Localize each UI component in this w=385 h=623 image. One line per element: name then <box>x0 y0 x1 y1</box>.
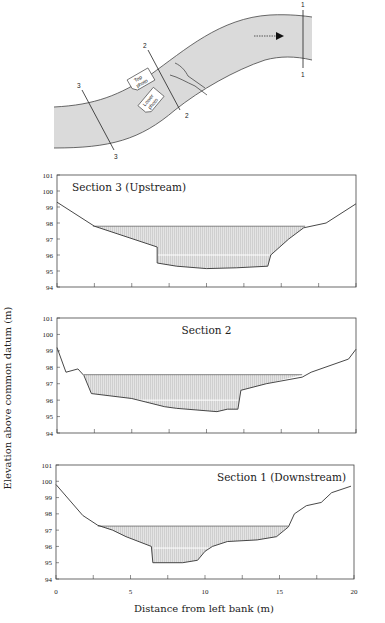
section-2-bottom-label: 2 <box>185 112 189 119</box>
water-area <box>93 226 305 268</box>
section-1-top-label: 1 <box>301 1 305 8</box>
y-tick-label: 96 <box>46 252 54 260</box>
panel-title: Section 2 <box>182 324 232 336</box>
section-2-chart: 949596979899100101Section 2 <box>43 315 357 438</box>
y-tick-label: 94 <box>45 576 53 584</box>
y-tick-label: 100 <box>43 188 54 196</box>
section-1-bottom-label: 1 <box>301 71 305 78</box>
water-area <box>98 526 289 563</box>
x-tick-label: 10 <box>202 588 210 596</box>
panel-title: Section 1 (Downstream) <box>217 471 346 483</box>
y-tick-label: 101 <box>42 462 53 470</box>
section-1-chart: 94959697989910010105101520Section 1 (Dow… <box>42 462 359 597</box>
y-tick-label: 98 <box>46 364 54 372</box>
y-tick-label: 94 <box>46 430 54 438</box>
y-tick-label: 99 <box>46 347 54 355</box>
panel-title: Section 3 (Upstream) <box>72 181 186 193</box>
y-tick-label: 98 <box>46 220 54 228</box>
section-2-top-label: 2 <box>143 42 147 49</box>
y-tick-label: 101 <box>43 315 54 323</box>
y-tick-label: 100 <box>43 331 54 339</box>
y-tick-label: 97 <box>45 527 53 535</box>
y-tick-label: 94 <box>46 284 54 292</box>
y-tick-label: 99 <box>46 204 54 212</box>
y-tick-label: 97 <box>46 380 54 388</box>
y-tick-label: 97 <box>46 236 54 244</box>
section-3-chart: 949596979899100101Section 3 (Upstream) <box>43 172 357 292</box>
section-3-bottom-label: 3 <box>114 153 118 160</box>
section-3-top-label: 3 <box>77 82 81 89</box>
y-tick-label: 100 <box>42 478 53 486</box>
x-tick-label: 5 <box>129 588 133 596</box>
water-area <box>84 375 302 412</box>
y-tick-label: 95 <box>46 268 54 276</box>
y-tick-label: 98 <box>45 510 53 518</box>
y-tick-label: 96 <box>46 397 54 405</box>
y-axis-label: Elevation above common datum (m) <box>2 306 13 489</box>
y-tick-label: 95 <box>45 559 53 567</box>
y-tick-label: 101 <box>43 172 54 180</box>
y-tick-label: 99 <box>45 494 53 502</box>
x-axis-label: Distance from left bank (m) <box>134 603 274 614</box>
y-tick-label: 95 <box>46 413 54 421</box>
river-channel <box>54 15 312 148</box>
river-plan-view: 1 1 2 2 3 3 Top photo Lower photo <box>54 1 312 160</box>
x-tick-label: 20 <box>351 588 359 596</box>
x-tick-label: 15 <box>276 588 284 596</box>
y-tick-label: 96 <box>45 543 53 551</box>
figure: 1 1 2 2 3 3 Top photo Lower photo Elevat… <box>0 0 385 623</box>
x-tick-label: 0 <box>54 588 58 596</box>
